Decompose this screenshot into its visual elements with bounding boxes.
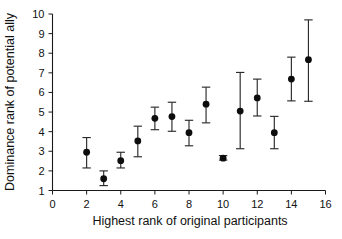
data-point-marker <box>271 129 278 136</box>
data-point-marker <box>220 155 227 162</box>
scatter-plot-with-error-bars: 12345678910 0246810121416 Highest rank o… <box>0 0 342 239</box>
y-tick-label-1: 1 <box>38 185 44 197</box>
x-tick-label-14: 14 <box>285 198 297 210</box>
data-point-group <box>99 171 107 186</box>
x-tick-label-6: 6 <box>152 198 158 210</box>
y-axis-tick-labels: 12345678910 <box>32 8 44 197</box>
data-point-marker <box>134 137 141 144</box>
y-tick-label-10: 10 <box>32 8 44 20</box>
x-tick-label-0: 0 <box>49 198 55 210</box>
y-tick-label-4: 4 <box>38 126 44 138</box>
data-point-marker <box>288 76 295 83</box>
data-point-group <box>304 20 312 101</box>
x-tick-label-2: 2 <box>84 198 90 210</box>
data-point-group <box>168 102 176 131</box>
data-point-group <box>253 79 261 116</box>
data-point-group <box>185 120 193 145</box>
data-point-marker <box>203 101 210 108</box>
data-point-group <box>270 116 278 148</box>
y-axis-title: Dominance rank of potential ally <box>3 12 17 191</box>
y-tick-label-2: 2 <box>38 165 44 177</box>
data-point-marker <box>83 149 90 156</box>
x-tick-label-12: 12 <box>251 198 263 210</box>
data-point-marker <box>169 113 176 120</box>
axes <box>53 14 326 191</box>
data-point-group <box>236 72 244 148</box>
data-point-marker <box>100 175 107 182</box>
data-point-marker <box>186 129 193 136</box>
y-tick-label-7: 7 <box>38 67 44 79</box>
y-tick-label-6: 6 <box>38 86 44 98</box>
data-point-marker <box>117 157 124 164</box>
y-tick-label-8: 8 <box>38 47 44 59</box>
data-point-group <box>117 152 125 168</box>
data-point-group <box>82 138 90 168</box>
data-point-marker <box>254 95 261 102</box>
x-axis-ticks <box>53 191 326 195</box>
chart-figure: 12345678910 0246810121416 Highest rank o… <box>0 0 342 239</box>
y-tick-label-9: 9 <box>38 28 44 40</box>
y-axis-ticks <box>49 14 53 191</box>
x-tick-label-4: 4 <box>118 198 124 210</box>
x-axis-tick-labels: 0246810121416 <box>49 198 331 210</box>
y-tick-label-5: 5 <box>38 106 44 118</box>
data-point-marker <box>237 108 244 115</box>
y-tick-label-3: 3 <box>38 145 44 157</box>
x-tick-label-16: 16 <box>319 198 331 210</box>
data-point-group <box>151 107 159 130</box>
data-point-marker <box>305 56 312 63</box>
data-point-group <box>202 87 210 123</box>
data-point-group <box>134 126 142 157</box>
x-tick-label-10: 10 <box>217 198 229 210</box>
x-axis-title: Highest rank of original participants <box>92 214 287 228</box>
data-point-group <box>287 57 295 101</box>
data-point-group <box>219 155 227 162</box>
x-tick-label-8: 8 <box>186 198 192 210</box>
data-series <box>82 20 312 186</box>
data-point-marker <box>151 115 158 122</box>
